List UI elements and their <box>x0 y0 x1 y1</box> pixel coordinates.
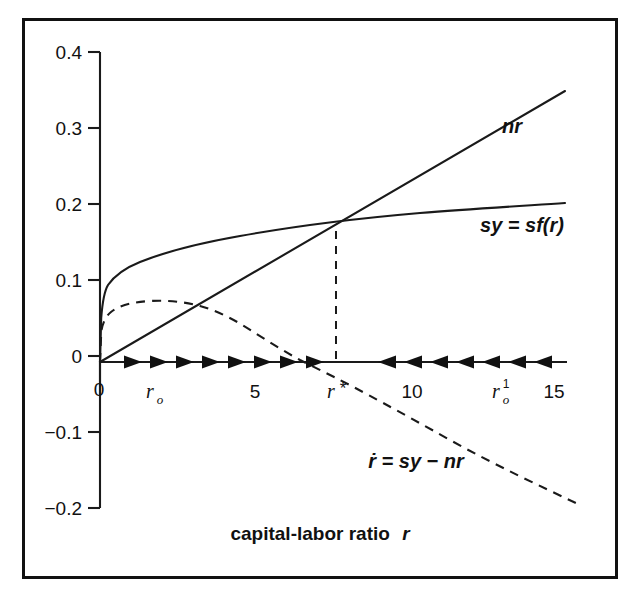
x-tick-label-10: 10 <box>401 381 422 402</box>
sy-curve-label: sy = sf(r) <box>480 214 564 236</box>
r0-base: r <box>146 380 154 402</box>
y-tick-label--0.2: −0.2 <box>44 498 82 519</box>
x-tick-label-0: 0 <box>94 379 105 400</box>
r01-base: r <box>492 380 500 402</box>
y-tick-label-0.1: 0.1 <box>56 270 82 291</box>
x-axis-title-text: capital-labor ratio <box>230 523 389 544</box>
figure-root: 0.4 0.3 0.2 0.1 0 −0.1 −0.2 0 5 10 15 r … <box>0 0 638 609</box>
y-tick-label--0.1: −0.1 <box>44 422 82 443</box>
y-tick-label-0.2: 0.2 <box>56 194 82 215</box>
r01-superscript: 1 <box>503 377 510 391</box>
y-tick-label-0: 0 <box>71 346 82 367</box>
nr-curve-label: nr <box>502 115 523 137</box>
x-tick-label-5: 5 <box>250 381 261 402</box>
y-tick-label-0.3: 0.3 <box>56 118 82 139</box>
caption-strip: ​ <box>0 586 638 609</box>
rdot-curve-label: ṙ = sy − nr <box>368 450 465 472</box>
x-tick-label-15: 15 <box>543 381 564 402</box>
r0-subscript: o <box>157 392 164 407</box>
y-tick-label-0.4: 0.4 <box>56 42 83 63</box>
solow-growth-diagram: 0.4 0.3 0.2 0.1 0 −0.1 −0.2 0 5 10 15 r … <box>0 0 638 609</box>
figure-frame <box>24 20 617 578</box>
rstar-base: r <box>327 380 335 402</box>
x-axis-title: capital-labor ratio r <box>230 523 411 544</box>
r01-subscript: o <box>503 392 510 407</box>
rstar-superscript: * <box>340 379 347 398</box>
